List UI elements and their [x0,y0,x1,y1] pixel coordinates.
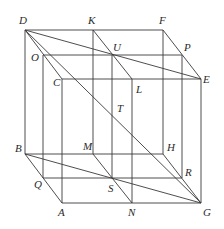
segment-DE [25,30,201,79]
point-label-O: O [31,51,39,63]
point-label-K: K [87,14,96,26]
point-label-Q: Q [34,178,42,190]
segment-DG [25,30,201,203]
point-label-C: C [53,76,61,88]
point-label-A: A [57,206,65,218]
point-label-G: G [203,206,211,218]
point-label-L: L [135,83,142,95]
segment-BA [25,154,62,203]
point-label-H: H [166,141,176,153]
edge-group [25,30,201,203]
point-label-P: P [183,41,191,53]
point-label-E: E [202,73,210,85]
point-label-M: M [82,140,93,152]
segment-BG [25,154,201,203]
diagram-canvas: DKFOUPCLETBMHQSRANG [0,0,224,229]
point-label-S: S [108,182,114,194]
point-label-B: B [15,142,22,154]
point-label-D: D [18,14,27,26]
point-label-F: F [158,14,166,26]
point-label-R: R [184,166,192,178]
point-label-N: N [127,206,136,218]
point-label-T: T [117,102,124,114]
point-label-U: U [113,41,122,53]
cube-diagram: DKFOUPCLETBMHQSRANG [0,0,224,229]
